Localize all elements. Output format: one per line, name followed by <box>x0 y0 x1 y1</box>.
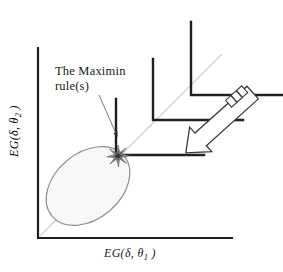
indifference-curve-outer <box>191 22 283 95</box>
y-axis-label-subscript: 2 <box>13 113 23 118</box>
y-axis-label-wrapper: EG(δ, θ2 ) <box>7 91 25 171</box>
y-axis-label: EG(δ, θ2 ) <box>7 91 23 171</box>
maximin-annotation-label: The Maximin rule(s) <box>55 64 126 94</box>
y-axis-label-suffix: ) <box>7 105 21 109</box>
risk-set-ellipse <box>31 131 145 242</box>
x-axis-label-prefix: EG( <box>104 246 125 260</box>
annotation-line-1: The Maximin <box>55 64 126 78</box>
x-axis-label-comma: , <box>131 246 134 260</box>
y-axis-label-theta: θ <box>7 117 21 123</box>
x-axis-label-suffix: ) <box>152 246 156 260</box>
figure-canvas <box>0 0 283 272</box>
figure-container: The Maximin rule(s) EG(δ, θ1 ) EG(δ, θ2 … <box>0 0 283 272</box>
x-axis-label: EG(δ, θ1 ) <box>104 246 156 262</box>
y-axis-label-delta: δ <box>7 130 21 136</box>
annotation-line-2: rule(s) <box>55 79 126 94</box>
callout-block-arrow-icon <box>175 80 264 165</box>
y-axis-label-comma: , <box>7 127 21 130</box>
x-axis-label-subscript: 1 <box>144 252 149 262</box>
y-axis-label-prefix: EG( <box>7 136 21 157</box>
annotation-leader-line <box>99 95 117 136</box>
